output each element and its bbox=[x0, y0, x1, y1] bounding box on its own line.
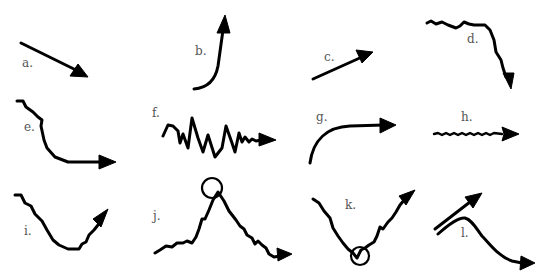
trend-d-label: d. bbox=[467, 33, 479, 45]
trend-f-arrow-icon bbox=[163, 118, 276, 157]
trend-b-label: b. bbox=[195, 45, 207, 57]
trend-c-arrow-icon bbox=[313, 50, 373, 79]
trend-i-label: i. bbox=[24, 225, 32, 237]
trend-c-label: c. bbox=[324, 51, 335, 63]
trend-a-label: a. bbox=[22, 57, 33, 69]
trend-h-arrow-icon bbox=[434, 127, 519, 141]
trend-k-arrow-icon bbox=[313, 190, 415, 265]
trend-f-label: f. bbox=[152, 107, 160, 119]
trend-e-arrow-icon bbox=[17, 101, 116, 169]
trend-j-arrow-icon bbox=[155, 178, 292, 261]
trend-e-label: e. bbox=[24, 121, 35, 133]
trend-l-label: l. bbox=[461, 227, 469, 239]
peak-highlight-circle-icon bbox=[202, 178, 222, 198]
trend-j-label: j. bbox=[153, 210, 161, 222]
trend-arrows-diagram: a. b. c. d. e. f. g. h. i. j. k. l. bbox=[0, 0, 546, 277]
trend-l-arrow-icon bbox=[435, 193, 535, 270]
trend-h-label: h. bbox=[461, 111, 473, 123]
trend-k-label: k. bbox=[345, 199, 356, 211]
trend-g-arrow-icon bbox=[310, 118, 396, 163]
trend-g-label: g. bbox=[316, 111, 328, 123]
trend-i-arrow-icon bbox=[15, 195, 108, 249]
